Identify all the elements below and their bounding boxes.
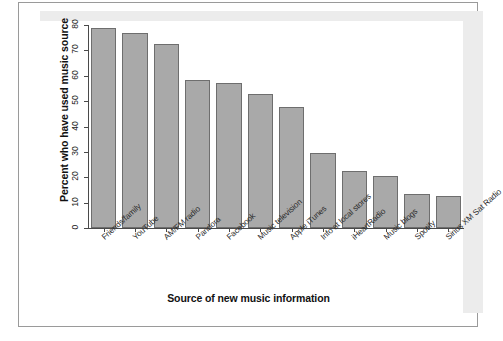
y-axis-tick-label: 70 bbox=[70, 40, 80, 58]
y-axis-tick bbox=[84, 177, 88, 178]
x-axis-title: Source of new music information bbox=[0, 292, 497, 304]
y-axis-line bbox=[88, 25, 89, 228]
bar bbox=[216, 83, 241, 228]
y-axis-tick bbox=[84, 228, 88, 229]
y-axis-tick-label: 10 bbox=[70, 193, 80, 211]
y-axis-tick bbox=[84, 152, 88, 153]
y-axis-tick bbox=[84, 127, 88, 128]
y-axis-tick-label: 0 bbox=[70, 218, 80, 236]
y-axis-title: Percent who have used music source bbox=[58, 0, 70, 220]
y-axis-tick bbox=[84, 76, 88, 77]
bar bbox=[248, 94, 273, 228]
y-axis-tick bbox=[84, 50, 88, 51]
bar bbox=[91, 28, 116, 228]
bar bbox=[122, 33, 147, 228]
y-axis-tick-label: 60 bbox=[70, 66, 80, 84]
y-axis-tick-label: 30 bbox=[70, 142, 80, 160]
y-axis-tick-label: 50 bbox=[70, 91, 80, 109]
bar bbox=[154, 44, 179, 228]
y-axis-tick bbox=[84, 203, 88, 204]
y-axis-tick-label: 20 bbox=[70, 167, 80, 185]
y-axis-tick bbox=[84, 101, 88, 102]
y-axis-tick-label: 80 bbox=[70, 15, 80, 33]
plot-area: 01020304050607080 bbox=[88, 20, 464, 230]
y-axis-tick bbox=[84, 25, 88, 26]
y-axis-tick-label: 40 bbox=[70, 117, 80, 135]
